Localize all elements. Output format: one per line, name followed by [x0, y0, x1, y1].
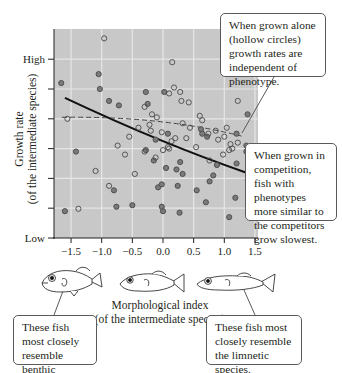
x-tick-label: 0.5: [187, 245, 201, 257]
point-competition: [211, 173, 216, 178]
point-competition: [96, 72, 101, 77]
point-competition: [153, 137, 158, 142]
point-competition: [159, 204, 164, 209]
point-competition: [130, 203, 135, 208]
benthic-fish-icon: [42, 267, 102, 296]
y-axis-subtitle: (of the intermediate species): [26, 74, 39, 205]
y-tick-label: High: [23, 53, 46, 65]
point-competition: [97, 86, 102, 91]
callout-limnetic: These fish most closely resemble the lim…: [206, 315, 302, 365]
point-competition: [162, 89, 167, 94]
point-competition: [233, 195, 238, 200]
limnetic-fish-icon: [197, 273, 275, 292]
x-tick-label: −0.5: [122, 245, 142, 257]
point-competition: [200, 131, 205, 136]
point-competition: [73, 149, 78, 154]
point-competition: [227, 215, 232, 220]
point-competition: [143, 89, 148, 94]
point-competition: [59, 80, 64, 85]
point-competition: [177, 210, 182, 215]
point-competition: [165, 131, 170, 136]
point-competition: [106, 98, 111, 103]
callout-benthic: These fish most closely resemble benthic…: [13, 315, 97, 365]
point-competition: [174, 167, 179, 172]
point-competition: [163, 165, 168, 170]
point-competition: [234, 131, 239, 136]
intermediate-fish-icon: [120, 271, 184, 292]
point-competition: [143, 147, 148, 152]
point-competition: [62, 209, 67, 214]
y-axis-title: Growth rate: [13, 111, 25, 166]
point-competition: [178, 159, 183, 164]
x-tick-label: −1.0: [92, 245, 112, 257]
x-tick-label: 1.5: [248, 245, 262, 257]
x-tick-label: −1.5: [61, 245, 81, 257]
point-competition: [245, 112, 250, 117]
point-competition: [207, 179, 212, 184]
x-tick-label: 1.0: [217, 245, 231, 257]
point-competition: [159, 182, 164, 187]
point-competition: [175, 183, 180, 188]
x-axis-title: Morphological index: [112, 299, 209, 312]
leader-benthic: [54, 291, 63, 315]
leader-limnetic: [244, 290, 255, 315]
point-competition: [180, 171, 185, 176]
point-competition: [194, 188, 199, 193]
point-competition: [145, 101, 150, 106]
point-competition: [234, 161, 239, 166]
point-competition: [114, 204, 119, 209]
x-tick-label: 0.0: [156, 245, 170, 257]
point-competition: [203, 200, 208, 205]
callout-grown-alone: When grown alone (hollow circles) growth…: [220, 13, 326, 77]
point-competition: [116, 103, 121, 108]
point-competition: [214, 162, 219, 167]
callout-grown-in-competition: When grown in competition, fish with phe…: [245, 143, 337, 221]
y-tick-label: Low: [25, 232, 45, 244]
point-competition: [111, 188, 116, 193]
